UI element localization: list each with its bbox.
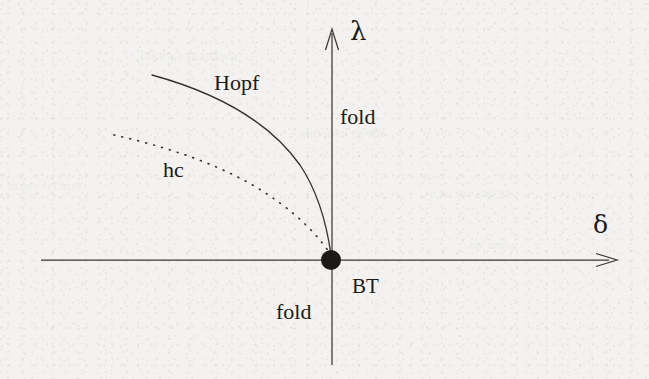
lambda-axis-label: λ (350, 16, 366, 46)
figure-canvas: lakawa manawa and area of the mque lectu… (0, 0, 649, 379)
bogdanov-takens-point (321, 250, 341, 270)
delta-axis-label: δ (593, 210, 608, 239)
homoclinic-curve-label: hc (163, 157, 184, 183)
bifurcation-diagram-svg (0, 0, 649, 379)
fold-label-upper: fold (340, 104, 375, 130)
homoclinic-curve (114, 135, 331, 255)
bt-point-label: BT (352, 274, 379, 299)
lambda-axis (326, 29, 339, 365)
fold-label-lower: fold (276, 299, 311, 325)
hopf-curve-label: Hopf (214, 70, 259, 96)
